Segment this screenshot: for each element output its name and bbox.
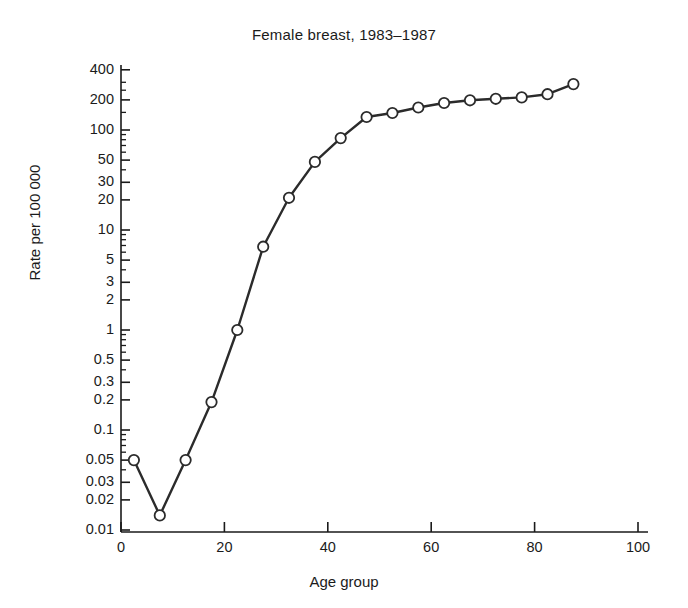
x-axis-ticks xyxy=(121,522,638,532)
chart-figure: Female breast, 1983–1987 Rate per 100 00… xyxy=(0,0,688,608)
data-point-marker xyxy=(310,157,320,167)
data-point-marker xyxy=(180,455,190,465)
y-tick-label: 0.05 xyxy=(44,451,114,467)
data-point-marker xyxy=(155,510,165,520)
y-tick-label: 2 xyxy=(44,291,114,307)
axis-lines xyxy=(121,65,648,532)
y-tick-label: 100 xyxy=(44,121,114,137)
data-markers xyxy=(129,79,579,521)
data-point-marker xyxy=(542,89,552,99)
y-tick-label: 0.2 xyxy=(44,391,114,407)
y-tick-label: 30 xyxy=(44,173,114,189)
y-tick-label: 3 xyxy=(44,273,114,289)
data-point-marker xyxy=(491,94,501,104)
x-tick-label: 20 xyxy=(194,539,254,555)
y-tick-label: 10 xyxy=(44,221,114,237)
y-tick-label: 0.03 xyxy=(44,473,114,489)
x-tick-label: 60 xyxy=(401,539,461,555)
y-tick-label: 50 xyxy=(44,151,114,167)
y-tick-label: 20 xyxy=(44,191,114,207)
x-tick-label: 0 xyxy=(91,539,151,555)
data-line xyxy=(134,84,574,515)
data-point-marker xyxy=(439,98,449,108)
data-point-marker xyxy=(361,112,371,122)
y-tick-label: 0.01 xyxy=(44,521,114,537)
y-tick-label: 0.5 xyxy=(44,351,114,367)
data-point-marker xyxy=(258,242,268,252)
y-tick-label: 0.02 xyxy=(44,491,114,507)
y-tick-label: 200 xyxy=(44,91,114,107)
y-tick-label: 5 xyxy=(44,251,114,267)
data-point-marker xyxy=(465,95,475,105)
x-tick-label: 80 xyxy=(505,539,565,555)
data-point-marker xyxy=(387,108,397,118)
x-tick-label: 40 xyxy=(298,539,358,555)
data-point-marker xyxy=(284,193,294,203)
y-tick-label: 0.3 xyxy=(44,373,114,389)
data-point-marker xyxy=(568,79,578,89)
y-tick-label: 1 xyxy=(44,321,114,337)
data-point-marker xyxy=(413,102,423,112)
data-point-marker xyxy=(517,92,527,102)
data-point-marker xyxy=(129,455,139,465)
y-tick-label: 400 xyxy=(44,61,114,77)
data-point-marker xyxy=(232,325,242,335)
data-point-marker xyxy=(336,133,346,143)
data-point-marker xyxy=(206,397,216,407)
y-tick-label: 0.1 xyxy=(44,421,114,437)
x-tick-label: 100 xyxy=(608,539,668,555)
